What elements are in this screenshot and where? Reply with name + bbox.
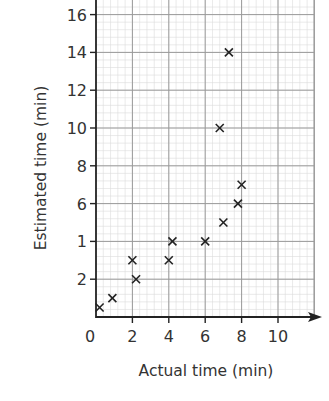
y-tick-label: 16 <box>67 6 87 25</box>
data-point-x-marker <box>108 294 116 302</box>
x-tick-label: 10 <box>268 327 288 346</box>
y-tick-label: 8 <box>77 157 87 176</box>
y-tick-label: 1 <box>77 232 87 251</box>
x-tick-label: 2 <box>127 327 137 346</box>
y-tick-label: 12 <box>67 81 87 100</box>
x-tick-label: 8 <box>237 327 247 346</box>
tick-marks <box>90 15 278 323</box>
x-tick-label: 6 <box>200 327 210 346</box>
y-tick-label: 6 <box>77 195 87 214</box>
tick-labels: 0246810216810121416 <box>67 6 289 346</box>
y-tick-label: 2 <box>77 270 87 289</box>
x-tick-label: 4 <box>164 327 174 346</box>
y-tick-label: 10 <box>67 119 87 138</box>
data-point-x-marker <box>219 219 227 227</box>
y-axis-label: Estimated time (min) <box>32 86 50 251</box>
axes <box>96 0 322 322</box>
x-axis-label: Actual time (min) <box>139 362 274 380</box>
scatter-chart: 0246810216810121416 Actual time (min) Es… <box>0 0 329 401</box>
x-tick-label: 0 <box>85 327 95 346</box>
y-tick-label: 14 <box>67 43 87 62</box>
